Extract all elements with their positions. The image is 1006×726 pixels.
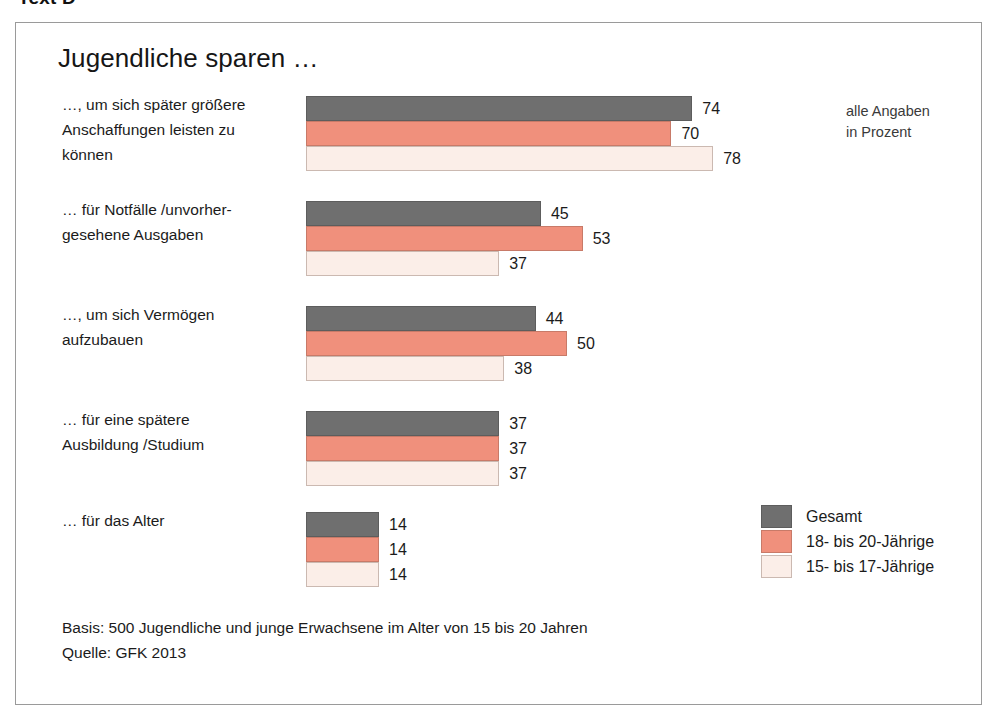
- bar[interactable]: [306, 146, 713, 171]
- bar-group-label: … für das Alter: [62, 508, 292, 533]
- bar-group-label-line: gesehene Ausgaben: [62, 222, 292, 247]
- legend-item[interactable]: 15- bis 17-Jährige: [761, 554, 934, 579]
- bar[interactable]: [306, 306, 536, 331]
- bar-value-label: 37: [509, 252, 527, 275]
- bar-value-label: 74: [702, 97, 720, 120]
- chart-footnote: Basis: 500 Jugendliche und junge Erwachs…: [62, 615, 588, 665]
- bar[interactable]: [306, 356, 504, 381]
- bar-value-label: 14: [389, 513, 407, 536]
- bar[interactable]: [306, 226, 583, 251]
- legend-item-label: Gesamt: [806, 508, 862, 526]
- bar[interactable]: [306, 436, 499, 461]
- legend-item[interactable]: Gesamt: [761, 504, 934, 529]
- chart-frame: Jugendliche sparen … alle Angaben in Pro…: [15, 22, 982, 705]
- bar-group-label-line: …, um sich später größere: [62, 92, 292, 117]
- chart-legend: Gesamt18- bis 20-Jährige15- bis 17-Jähri…: [761, 504, 934, 579]
- footnote-source: Quelle: GFK 2013: [62, 640, 588, 665]
- bar-group-label-line: aufzubauen: [62, 327, 292, 352]
- bar-group-label-line: …, um sich Vermögen: [62, 302, 292, 327]
- bar-value-label: 50: [577, 332, 595, 355]
- bar-value-label: 78: [723, 147, 741, 170]
- bar-value-label: 70: [681, 122, 699, 145]
- bar-group-label: …, um sich später größereAnschaffungen l…: [62, 92, 292, 167]
- bar-value-label: 53: [593, 227, 611, 250]
- page-caption: Text D: [18, 0, 76, 5]
- legend-swatch-icon: [761, 555, 792, 578]
- bar-value-label: 37: [509, 437, 527, 460]
- bar-group-label-line: … für Notfälle /unvorher-: [62, 197, 292, 222]
- bar-group-label: … für eine spätereAusbildung /Studium: [62, 407, 292, 457]
- bar-group-label-line: … für eine spätere: [62, 407, 292, 432]
- bar[interactable]: [306, 331, 567, 356]
- legend-item-label: 15- bis 17-Jährige: [806, 558, 934, 576]
- bar[interactable]: [306, 251, 499, 276]
- bar[interactable]: [306, 96, 692, 121]
- bar-value-label: 44: [546, 307, 564, 330]
- bar-group-label: …, um sich Vermögenaufzubauen: [62, 302, 292, 352]
- bar-value-label: 14: [389, 538, 407, 561]
- bar-value-label: 38: [514, 357, 532, 380]
- bar-value-label: 45: [551, 202, 569, 225]
- bar[interactable]: [306, 512, 379, 537]
- legend-swatch-icon: [761, 505, 792, 528]
- bar[interactable]: [306, 537, 379, 562]
- bar[interactable]: [306, 201, 541, 226]
- legend-swatch-icon: [761, 530, 792, 553]
- footnote-basis: Basis: 500 Jugendliche und junge Erwachs…: [62, 615, 588, 640]
- bar-group-label-line: … für das Alter: [62, 508, 292, 533]
- bar-group-label-line: Ausbildung /Studium: [62, 432, 292, 457]
- bar[interactable]: [306, 562, 379, 587]
- bar-group-label-line: können: [62, 142, 292, 167]
- bar-group-label-line: Anschaffungen leisten zu: [62, 117, 292, 142]
- bar[interactable]: [306, 411, 499, 436]
- legend-item-label: 18- bis 20-Jährige: [806, 533, 934, 551]
- bar-value-label: 37: [509, 462, 527, 485]
- bar[interactable]: [306, 121, 671, 146]
- bar-group-label: … für Notfälle /unvorher-gesehene Ausgab…: [62, 197, 292, 247]
- bar-chart-plot-area: …, um sich später größereAnschaffungen l…: [16, 23, 983, 706]
- bar-value-label: 14: [389, 563, 407, 586]
- bar-value-label: 37: [509, 412, 527, 435]
- legend-item[interactable]: 18- bis 20-Jährige: [761, 529, 934, 554]
- bar[interactable]: [306, 461, 499, 486]
